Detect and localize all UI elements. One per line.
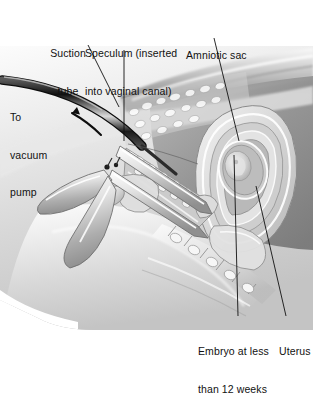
right-margin	[313, 40, 333, 354]
label-amniotic-sac-line1: Amniotic sac	[186, 49, 247, 62]
label-embryo-line1: Embryo at less	[198, 345, 269, 358]
label-amniotic-sac: Amniotic sac	[186, 24, 247, 87]
label-embryo-line2: than 12 weeks	[198, 383, 269, 396]
label-speculum: Speculum (inserted into vaginal canal)	[85, 22, 177, 122]
label-speculum-line1: Speculum (inserted	[85, 47, 177, 60]
label-embryo: Embryo at less than 12 weeks	[198, 320, 269, 397]
label-uterus: Uterus	[279, 320, 311, 383]
label-uterus-line1: Uterus	[279, 345, 311, 358]
label-to-vacuum-pump-line2: vacuum	[10, 149, 47, 162]
label-to-vacuum-pump-line1: To	[10, 111, 47, 124]
label-to-vacuum-pump-line3: pump	[10, 186, 47, 199]
label-speculum-line2: into vaginal canal)	[85, 85, 177, 98]
label-to-vacuum-pump: To vacuum pump	[10, 86, 47, 224]
